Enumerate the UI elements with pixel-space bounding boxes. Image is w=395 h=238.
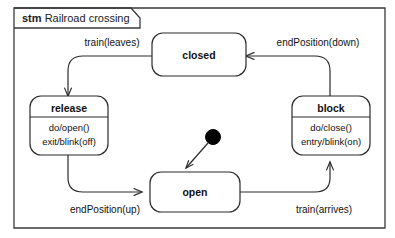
transition-release-to-open <box>68 155 142 192</box>
state-release-activity-do: do/open() <box>49 122 90 133</box>
initial-pseudostate-icon <box>206 130 221 145</box>
transition-open-to-block <box>240 162 330 192</box>
transition-label-endposition-down: endPosition(down) <box>277 37 360 48</box>
transition-block-to-closed <box>246 56 330 96</box>
transition-initial-to-open <box>186 143 208 168</box>
state-closed-name: closed <box>182 49 215 61</box>
state-release[interactable]: release do/open() exit/blink(off) <box>30 96 108 155</box>
state-block[interactable]: block do/close() entry/blink(on) <box>292 96 370 155</box>
diagram-canvas: stm Railroad crossing train(leaves) endP… <box>0 0 395 238</box>
transition-label-train-arrives: train(arrives) <box>296 204 352 215</box>
frame-keyword: stm <box>22 12 42 24</box>
state-open[interactable]: open <box>150 172 240 212</box>
state-open-name: open <box>182 186 207 198</box>
state-closed[interactable]: closed <box>152 33 246 76</box>
state-block-activity-do: do/close() <box>310 122 352 133</box>
state-machine-diagram: stm Railroad crossing train(leaves) endP… <box>0 0 395 238</box>
state-block-activity-entry: entry/blink(on) <box>301 136 361 147</box>
state-release-activity-exit: exit/blink(off) <box>42 136 96 147</box>
transition-closed-to-release <box>68 56 152 96</box>
frame-label: stm Railroad crossing <box>22 12 130 24</box>
transition-label-endposition-up: endPosition(up) <box>70 204 140 215</box>
state-release-name: release <box>51 102 87 114</box>
frame-title: Railroad crossing <box>45 12 130 24</box>
state-block-name: block <box>317 102 345 114</box>
transition-label-train-leaves: train(leaves) <box>84 37 139 48</box>
